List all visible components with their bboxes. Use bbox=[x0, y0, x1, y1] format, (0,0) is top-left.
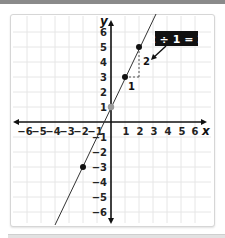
x-tick: 3 bbox=[151, 126, 158, 137]
x-tick: 5 bbox=[179, 126, 186, 137]
bottom-band bbox=[8, 234, 225, 238]
point-2-5 bbox=[136, 44, 142, 50]
point-neg2-neg3 bbox=[80, 164, 86, 170]
y-tick: −4 bbox=[92, 177, 107, 188]
y-tick: −3 bbox=[92, 162, 107, 173]
y-intercept-point bbox=[108, 104, 114, 110]
y-tick: 4 bbox=[100, 57, 107, 68]
x-tick: 4 bbox=[165, 126, 172, 137]
x-tick: 1 bbox=[123, 126, 130, 137]
arrow-down-icon bbox=[108, 218, 114, 224]
x-tick: 6 bbox=[192, 126, 199, 137]
slope-callout: 2 ÷ 1 = 2 bbox=[148, 31, 205, 60]
y-tick: −6 bbox=[92, 207, 107, 218]
y-tick: −1 bbox=[92, 132, 107, 143]
coordinate-graph: y x −6 −5 −4 −3 −2 −1 1 2 3 4 5 6 6 5 4 … bbox=[0, 0, 225, 238]
y-tick: −5 bbox=[92, 192, 107, 203]
y-axis-label: y bbox=[100, 14, 109, 28]
arrow-up-icon bbox=[108, 20, 114, 26]
y-tick: 6 bbox=[100, 27, 107, 38]
point-1-3 bbox=[122, 74, 128, 80]
y-tick: −2 bbox=[92, 147, 107, 158]
callout-text: 2 ÷ 1 = 2 bbox=[148, 33, 205, 46]
y-tick: 5 bbox=[100, 42, 107, 53]
x-tick-labels: −6 −5 −4 −3 −2 −1 1 2 3 4 5 6 bbox=[17, 126, 198, 137]
run-label: 1 bbox=[128, 81, 135, 92]
y-tick: 1 bbox=[100, 102, 107, 113]
x-axis-label: x bbox=[201, 124, 211, 138]
x-tick: 2 bbox=[137, 126, 144, 137]
grid bbox=[13, 16, 211, 223]
y-tick: 3 bbox=[100, 72, 107, 83]
y-tick: 2 bbox=[100, 87, 107, 98]
arrow-left-icon bbox=[13, 119, 19, 125]
rise-label: 2 bbox=[143, 56, 150, 67]
x-axis bbox=[13, 119, 207, 125]
